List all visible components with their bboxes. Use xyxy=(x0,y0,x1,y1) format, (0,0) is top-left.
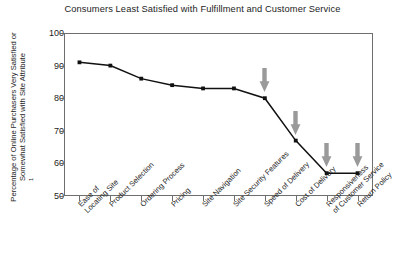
arrow-cost-of-delivery-icon xyxy=(290,111,301,135)
data-point-marker xyxy=(294,139,298,143)
data-point-marker xyxy=(201,87,205,91)
data-point-marker xyxy=(170,83,174,87)
series-polyline xyxy=(79,62,357,173)
chart-container: Consumers Least Satisfied with Fulfillme… xyxy=(0,0,405,272)
data-series-line xyxy=(0,0,405,272)
data-point-marker xyxy=(263,96,267,100)
arrow-speed-of-delivery-icon xyxy=(259,68,270,92)
arrow-return-policy-icon xyxy=(352,143,363,167)
data-point-marker xyxy=(139,77,143,81)
arrow-responsiveness-of-customer-service-icon xyxy=(321,143,332,167)
data-point-marker xyxy=(78,60,82,64)
data-point-marker xyxy=(108,64,112,68)
data-point-marker xyxy=(232,87,236,91)
